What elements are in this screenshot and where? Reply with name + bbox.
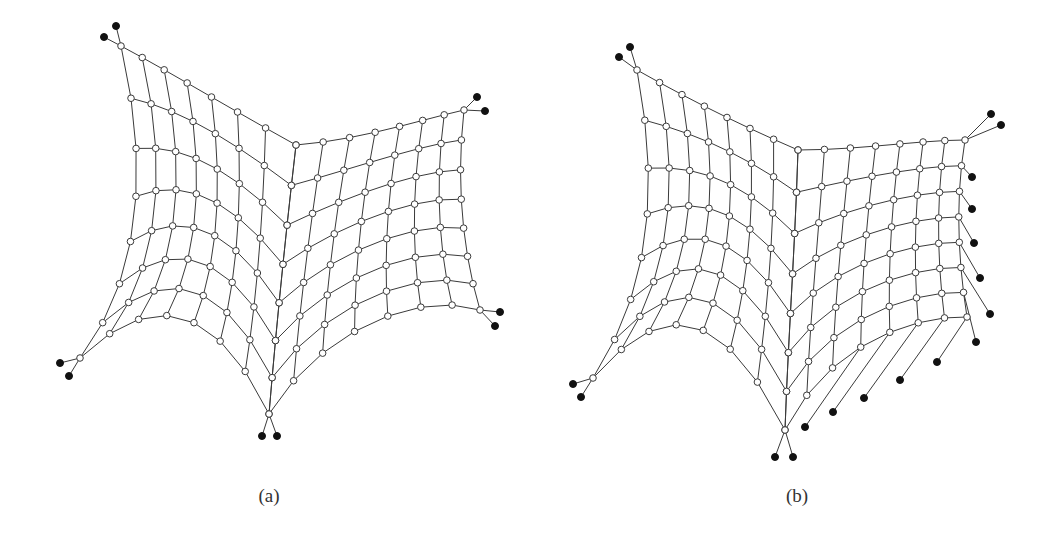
mesh-edge bbox=[164, 70, 187, 83]
free-node bbox=[916, 165, 923, 172]
mesh-edge bbox=[415, 177, 416, 205]
free-node bbox=[288, 182, 295, 189]
mesh-edge bbox=[391, 155, 395, 183]
free-node bbox=[437, 224, 444, 231]
free-node bbox=[470, 280, 477, 287]
fixed-node bbox=[259, 433, 266, 440]
mesh-edge bbox=[121, 46, 131, 98]
free-node bbox=[413, 173, 420, 180]
mesh-edge bbox=[269, 378, 272, 414]
mesh-edge bbox=[327, 265, 330, 295]
mesh-edge bbox=[729, 185, 730, 216]
mesh-edge bbox=[193, 121, 215, 133]
free-node bbox=[341, 167, 348, 174]
fixed-node bbox=[772, 454, 779, 461]
mesh-edge bbox=[330, 234, 334, 265]
mesh-edge bbox=[689, 269, 699, 297]
mesh-edge bbox=[388, 184, 391, 212]
free-node bbox=[214, 166, 221, 173]
mesh-edge bbox=[621, 331, 649, 349]
free-node bbox=[886, 303, 893, 310]
mesh-edge bbox=[294, 349, 297, 381]
mesh-edge bbox=[698, 239, 705, 269]
mesh-edge bbox=[334, 221, 361, 233]
free-node bbox=[695, 266, 702, 273]
mesh-edge bbox=[795, 192, 797, 233]
mesh-edge bbox=[334, 202, 338, 234]
free-node bbox=[388, 180, 395, 187]
free-node bbox=[461, 107, 468, 114]
mesh-edge bbox=[631, 258, 642, 300]
free-node bbox=[770, 136, 777, 143]
fixed-node bbox=[861, 395, 868, 402]
mesh-edge bbox=[275, 303, 279, 341]
free-node bbox=[844, 178, 851, 185]
mesh-edge bbox=[787, 361, 809, 391]
mesh-edge bbox=[730, 152, 731, 185]
free-node bbox=[276, 299, 283, 306]
mesh-edge bbox=[131, 98, 136, 148]
free-node bbox=[747, 125, 754, 132]
figure-caption-b: (b) bbox=[786, 485, 808, 507]
mesh-edge bbox=[266, 128, 296, 145]
mesh-edge bbox=[211, 97, 215, 134]
free-node bbox=[214, 200, 221, 207]
mesh-edge bbox=[439, 143, 441, 171]
free-node bbox=[128, 95, 135, 102]
free-node bbox=[254, 270, 261, 277]
fixed-node bbox=[973, 339, 980, 346]
mesh-edge bbox=[750, 128, 751, 163]
free-node bbox=[412, 254, 419, 261]
free-node bbox=[941, 315, 948, 322]
free-node bbox=[789, 271, 796, 278]
mesh-edge bbox=[387, 231, 415, 239]
mesh-edge bbox=[387, 211, 389, 238]
mesh-edge bbox=[816, 223, 819, 258]
fixed-node bbox=[66, 373, 73, 380]
free-node bbox=[163, 312, 170, 319]
mesh-edge bbox=[447, 280, 473, 284]
free-node bbox=[956, 188, 963, 195]
free-node bbox=[190, 118, 197, 125]
free-node bbox=[259, 199, 266, 206]
mesh-edge bbox=[370, 132, 375, 162]
mesh-edge bbox=[703, 303, 713, 330]
free-node bbox=[190, 224, 197, 231]
mesh-edge bbox=[325, 295, 328, 324]
free-node bbox=[739, 287, 746, 294]
mesh-edge bbox=[660, 83, 667, 127]
free-node bbox=[701, 103, 708, 110]
free-node bbox=[162, 256, 169, 263]
mesh-edge bbox=[414, 231, 415, 257]
mesh-edge bbox=[862, 263, 864, 291]
mesh-edge bbox=[813, 276, 838, 293]
mesh-edge bbox=[154, 260, 165, 291]
free-node bbox=[857, 344, 864, 351]
mesh-edge bbox=[768, 283, 790, 314]
free-node bbox=[705, 139, 712, 146]
mesh-edge bbox=[861, 319, 862, 347]
mesh-edge bbox=[747, 260, 768, 282]
mesh-edge bbox=[704, 106, 708, 142]
free-node bbox=[727, 346, 734, 353]
mesh-edge bbox=[676, 297, 689, 324]
mesh-edge bbox=[889, 254, 890, 280]
free-node bbox=[627, 296, 634, 303]
free-node bbox=[319, 350, 326, 357]
free-node bbox=[242, 368, 249, 375]
mesh-edge bbox=[461, 199, 463, 228]
fixed-node bbox=[802, 424, 809, 431]
mesh-edge bbox=[304, 248, 308, 282]
mesh-edge bbox=[365, 184, 391, 193]
mesh-edge bbox=[80, 334, 110, 358]
mesh-edge bbox=[260, 202, 262, 238]
free-node bbox=[152, 145, 159, 152]
mesh-edge bbox=[323, 138, 349, 142]
free-node bbox=[706, 205, 713, 212]
free-node bbox=[707, 173, 714, 180]
free-node bbox=[346, 134, 353, 141]
mesh-edge bbox=[762, 316, 766, 349]
free-node bbox=[415, 145, 422, 152]
mesh-edge bbox=[940, 167, 942, 193]
free-node bbox=[744, 257, 751, 264]
